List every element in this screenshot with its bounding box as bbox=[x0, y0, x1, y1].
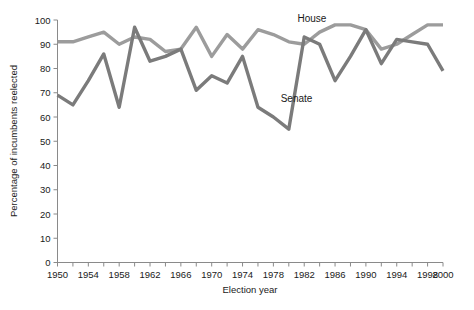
x-tick-label: 1990 bbox=[355, 269, 376, 280]
x-tick-label: 1994 bbox=[386, 269, 407, 280]
y-tick-label: 30 bbox=[40, 184, 51, 195]
x-tick-label: 1966 bbox=[170, 269, 191, 280]
x-tick-label: 1970 bbox=[201, 269, 222, 280]
x-tick-label: 1978 bbox=[263, 269, 284, 280]
chart-container: 0102030405060708090100 19501954195819621… bbox=[0, 0, 474, 310]
x-tick-label: 1974 bbox=[232, 269, 253, 280]
series-label-house: House bbox=[297, 13, 326, 24]
x-tick-label: 1982 bbox=[294, 269, 315, 280]
x-tick-label: 1958 bbox=[109, 269, 130, 280]
chart-background bbox=[0, 0, 474, 310]
x-tick-label: 1954 bbox=[78, 269, 99, 280]
y-tick-label: 0 bbox=[45, 257, 50, 268]
y-tick-label: 100 bbox=[35, 15, 51, 26]
y-axis-title: Percentage of incumbents reelected bbox=[8, 65, 19, 217]
x-axis-title: Election year bbox=[223, 284, 278, 295]
x-tick-label: 1962 bbox=[139, 269, 160, 280]
series-label-senate: Senate bbox=[281, 93, 313, 104]
y-tick-label: 60 bbox=[40, 112, 51, 123]
y-tick-label: 90 bbox=[40, 39, 51, 50]
y-tick-label: 40 bbox=[40, 160, 51, 171]
y-tick-label: 70 bbox=[40, 87, 51, 98]
y-tick-label: 20 bbox=[40, 209, 51, 220]
x-tick-label: 1986 bbox=[324, 269, 345, 280]
y-tick-label: 80 bbox=[40, 63, 51, 74]
y-tick-label: 50 bbox=[40, 136, 51, 147]
x-tick-label: 1950 bbox=[47, 269, 68, 280]
incumbent-reelection-line-chart: 0102030405060708090100 19501954195819621… bbox=[0, 0, 474, 310]
y-tick-label: 10 bbox=[40, 233, 51, 244]
x-tick-label: 2000 bbox=[432, 269, 453, 280]
